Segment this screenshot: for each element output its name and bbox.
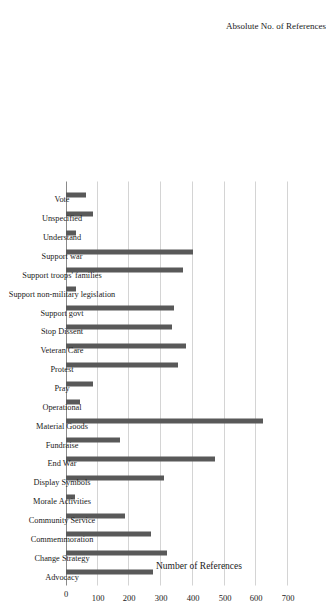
bar-slot bbox=[66, 242, 288, 261]
bar-unspecified bbox=[66, 211, 93, 216]
bar-community-service bbox=[66, 513, 125, 518]
y-tick-label: 500 bbox=[218, 592, 231, 602]
bar-operational bbox=[66, 399, 80, 404]
y-tick-400: 400 bbox=[188, 591, 198, 603]
y-tick-600: 600 bbox=[251, 591, 261, 603]
bar-protest bbox=[66, 362, 178, 367]
bar-support-govt bbox=[66, 305, 174, 310]
bar-commemmoration bbox=[66, 531, 151, 536]
x-axis-title: Absolute No. of References bbox=[226, 20, 326, 30]
bar-slot bbox=[66, 185, 288, 204]
bar-chart: 0100200300400500600700 Number of Referen… bbox=[0, 0, 306, 603]
bar-slot bbox=[66, 449, 288, 468]
bar-slot bbox=[66, 392, 288, 411]
bar-pray bbox=[66, 381, 93, 386]
y-tick-label: 100 bbox=[91, 592, 104, 602]
bar-veteran-care bbox=[66, 343, 186, 348]
y-tick-200: 200 bbox=[124, 591, 134, 603]
y-tick-700: 700 bbox=[283, 591, 293, 603]
bar-slot bbox=[66, 336, 288, 355]
bar-support-non-military-legislation bbox=[66, 286, 76, 291]
rotated-figure: 0100200300400500600700 Number of Referen… bbox=[0, 0, 306, 603]
bar-understand bbox=[66, 230, 76, 235]
bar-slot bbox=[66, 317, 288, 336]
bar-slot bbox=[66, 223, 288, 242]
y-tick-500: 500 bbox=[220, 591, 230, 603]
bar-change-strategy bbox=[66, 550, 167, 555]
bar-display-symbols bbox=[66, 475, 164, 480]
y-tick-100: 100 bbox=[93, 591, 103, 603]
bar-end-war bbox=[66, 456, 215, 461]
bar-advocacy bbox=[66, 569, 153, 574]
y-tick-label: 700 bbox=[282, 592, 295, 602]
plot-area bbox=[66, 181, 288, 585]
y-axis-title: Number of References bbox=[156, 560, 242, 570]
y-tick-label: 300 bbox=[155, 592, 168, 602]
y-tick-0: 0 bbox=[61, 591, 71, 595]
bar-slot bbox=[66, 374, 288, 393]
bar-slot bbox=[66, 524, 288, 543]
bar-slot bbox=[66, 430, 288, 449]
bar-slot bbox=[66, 411, 288, 430]
y-tick-label: 400 bbox=[186, 592, 199, 602]
bar-vote bbox=[66, 192, 86, 197]
y-tick-label: 600 bbox=[250, 592, 263, 602]
bar-fundraise bbox=[66, 437, 120, 442]
bar-material-goods bbox=[66, 418, 263, 423]
bar-slot bbox=[66, 468, 288, 487]
bar-slot bbox=[66, 355, 288, 374]
bar-support-war bbox=[66, 249, 193, 254]
bar-slot bbox=[66, 506, 288, 525]
bar-slot bbox=[66, 260, 288, 279]
y-tick-300: 300 bbox=[156, 591, 166, 603]
bar-slot bbox=[66, 487, 288, 506]
bar-morale-activities bbox=[66, 494, 76, 499]
y-tick-label: 200 bbox=[123, 592, 136, 602]
bar-slot bbox=[66, 204, 288, 223]
bar-slot bbox=[66, 279, 288, 298]
y-tick-label: 0 bbox=[64, 588, 68, 598]
bar-stop-dissent bbox=[66, 324, 172, 329]
bar-support-troops-families bbox=[66, 267, 183, 272]
bar-series bbox=[66, 181, 288, 585]
figure-wrapper: 0100200300400500600700 Number of Referen… bbox=[0, 0, 306, 603]
bar-slot bbox=[66, 298, 288, 317]
bar-slot bbox=[66, 543, 288, 562]
